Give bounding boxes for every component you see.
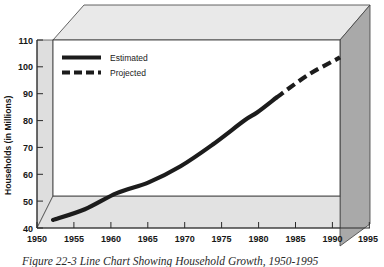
x-tick-label-1985: 1985 — [285, 234, 305, 244]
y-tick-label-60: 60 — [23, 170, 33, 180]
box-right-wall-panel — [340, 5, 370, 246]
x-tick-label-1955: 1955 — [64, 234, 84, 244]
y-tick-label-50: 50 — [23, 197, 33, 207]
x-tick-label-1960: 1960 — [101, 234, 121, 244]
y-tick-label-80: 80 — [23, 116, 33, 126]
x-tick-label-1975: 1975 — [212, 234, 232, 244]
box-top-panel — [53, 5, 370, 40]
legend-label-projected: Projected — [110, 68, 146, 78]
y-tick-label-70: 70 — [23, 143, 33, 153]
y-axis-title: Households (in Millions) — [3, 96, 13, 195]
legend-label-estimated: Estimated — [110, 53, 148, 63]
x-tick-label-1990: 1990 — [322, 234, 342, 244]
x-tick-label-1970: 1970 — [175, 234, 195, 244]
plot-back-wall — [53, 40, 340, 196]
household-growth-line-chart: 110 100 90 80 70 60 50 40 Households (in… — [0, 0, 384, 267]
box-left-wall-panel — [37, 40, 53, 228]
x-tick-label-1995: 1995 — [358, 234, 378, 244]
y-tick-label-40: 40 — [23, 224, 33, 234]
figure-container: 110 100 90 80 70 60 50 40 Households (in… — [0, 0, 384, 267]
figure-caption: Figure 22-3 Line Chart Showing Household… — [21, 255, 318, 267]
x-tick-label-1950: 1950 — [27, 234, 47, 244]
y-tick-label-110: 110 — [18, 36, 33, 46]
x-tick-label-1965: 1965 — [138, 234, 158, 244]
x-tick-label-1980: 1980 — [249, 234, 269, 244]
y-tick-label-90: 90 — [23, 89, 33, 99]
y-tick-label-100: 100 — [18, 62, 33, 72]
